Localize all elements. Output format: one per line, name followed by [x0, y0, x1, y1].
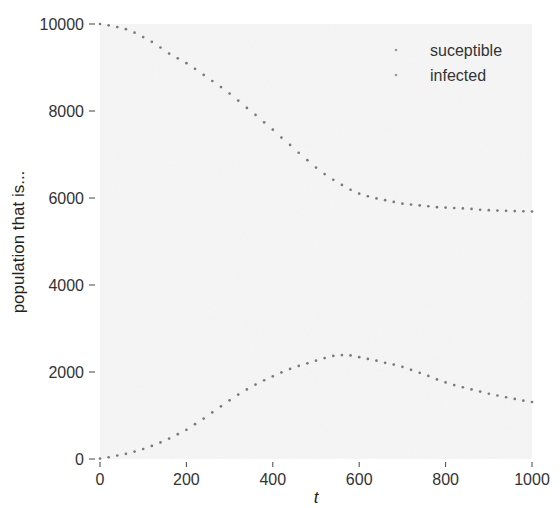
- data-point: [116, 454, 119, 457]
- data-point: [487, 209, 490, 212]
- x-tick-label: 600: [346, 471, 373, 488]
- x-axis-label: t: [314, 488, 320, 507]
- data-point: [479, 208, 482, 211]
- data-point: [142, 448, 145, 451]
- data-point: [427, 205, 430, 208]
- data-point: [531, 210, 534, 213]
- legend-marker-infected: [395, 74, 398, 77]
- sir-scatter-chart: 0200040006000800010000 02004006008001000…: [0, 0, 560, 508]
- data-point: [341, 354, 344, 357]
- data-point: [349, 354, 352, 357]
- data-point: [297, 365, 300, 368]
- y-tick-label: 6000: [48, 190, 84, 207]
- data-point: [315, 166, 318, 169]
- x-axis: 02004006008001000: [96, 462, 550, 488]
- data-point: [125, 452, 128, 455]
- data-point: [142, 36, 145, 39]
- data-point: [358, 356, 361, 359]
- data-point: [444, 381, 447, 384]
- y-tick-label: 10000: [40, 16, 85, 33]
- data-point: [332, 178, 335, 181]
- data-point: [410, 203, 413, 206]
- data-point: [375, 197, 378, 200]
- data-point: [254, 383, 257, 386]
- data-point: [487, 392, 490, 395]
- legend-marker-suceptible: [395, 49, 398, 52]
- data-point: [202, 417, 205, 420]
- data-point: [125, 28, 128, 31]
- data-point: [176, 433, 179, 436]
- legend-label-suceptible: suceptible: [430, 42, 502, 59]
- plot-area-texture: [100, 24, 532, 459]
- data-point: [392, 201, 395, 204]
- data-point: [531, 401, 534, 404]
- data-point: [505, 396, 508, 399]
- data-point: [194, 67, 197, 70]
- y-tick-label: 4000: [48, 277, 84, 294]
- y-tick-label: 0: [75, 451, 84, 468]
- data-point: [228, 399, 231, 402]
- data-point: [194, 423, 197, 426]
- x-tick-label: 800: [432, 471, 459, 488]
- data-point: [401, 202, 404, 205]
- data-point: [479, 390, 482, 393]
- data-point: [453, 384, 456, 387]
- data-point: [375, 359, 378, 362]
- data-point: [289, 368, 292, 371]
- data-point: [246, 107, 249, 110]
- data-point: [332, 355, 335, 358]
- data-point: [168, 52, 171, 55]
- y-tick-label: 2000: [48, 364, 84, 381]
- data-point: [462, 207, 465, 210]
- data-point: [470, 208, 473, 211]
- data-point: [185, 429, 188, 432]
- x-tick-label: 400: [259, 471, 286, 488]
- x-tick-label: 0: [96, 471, 105, 488]
- data-point: [185, 62, 188, 65]
- data-point: [133, 450, 136, 453]
- data-point: [436, 378, 439, 381]
- data-point: [522, 210, 525, 213]
- y-tick-label: 8000: [48, 103, 84, 120]
- data-point: [228, 92, 231, 95]
- data-point: [392, 363, 395, 366]
- data-point: [384, 199, 387, 202]
- data-point: [522, 399, 525, 402]
- data-point: [168, 437, 171, 440]
- data-point: [418, 204, 421, 207]
- data-point: [271, 128, 274, 131]
- data-point: [496, 394, 499, 397]
- data-point: [254, 114, 257, 117]
- data-point: [246, 388, 249, 391]
- data-point: [341, 184, 344, 187]
- x-tick-label: 1000: [514, 471, 550, 488]
- legend-label-infected: infected: [430, 67, 486, 84]
- data-point: [366, 195, 369, 198]
- data-point: [237, 99, 240, 102]
- data-point: [513, 210, 516, 213]
- data-point: [444, 206, 447, 209]
- data-point: [453, 207, 456, 210]
- data-point: [159, 441, 162, 444]
- data-point: [323, 357, 326, 360]
- data-point: [107, 456, 110, 459]
- data-point: [462, 386, 465, 389]
- data-point: [427, 375, 430, 378]
- data-point: [211, 80, 214, 83]
- data-point: [99, 457, 102, 460]
- data-point: [150, 40, 153, 43]
- data-point: [211, 411, 214, 414]
- data-point: [263, 121, 266, 124]
- data-point: [306, 362, 309, 365]
- data-point: [116, 26, 119, 29]
- data-point: [470, 388, 473, 391]
- data-point: [410, 368, 413, 371]
- data-point: [366, 358, 369, 361]
- data-point: [263, 379, 266, 382]
- data-point: [220, 405, 223, 408]
- data-point: [133, 31, 136, 34]
- data-point: [513, 398, 516, 401]
- data-point: [159, 46, 162, 49]
- data-point: [418, 372, 421, 375]
- data-point: [323, 173, 326, 176]
